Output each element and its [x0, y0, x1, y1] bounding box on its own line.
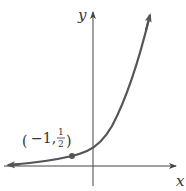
- curve-arrow-top: [146, 15, 150, 30]
- exponential-graph: x y ( −1, 1 2 ): [0, 0, 186, 191]
- x-axis-label: x: [176, 172, 185, 190]
- point-label: ( −1, 1 2 ): [22, 127, 71, 149]
- svg-text:): ): [66, 133, 71, 149]
- svg-text:1: 1: [58, 127, 64, 137]
- y-axis-label: y: [77, 6, 87, 24]
- svg-text:(: (: [22, 133, 27, 149]
- point-marker: [69, 153, 75, 159]
- svg-text:−1,: −1,: [31, 130, 56, 146]
- svg-text:2: 2: [58, 139, 64, 149]
- curve-arrow-left: [8, 164, 20, 165]
